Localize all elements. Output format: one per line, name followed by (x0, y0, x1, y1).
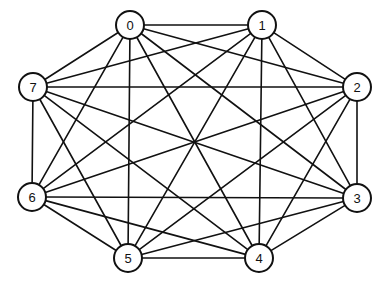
graph-canvas: 01234567 (0, 0, 388, 288)
graph-edge (259, 39, 262, 244)
node-circle[interactable] (248, 11, 276, 39)
graph-node-6[interactable]: 6 (18, 183, 46, 211)
node-circle[interactable] (114, 244, 142, 272)
node-circle[interactable] (245, 244, 273, 272)
graph-edge (39, 37, 123, 185)
node-circle[interactable] (19, 73, 47, 101)
graph-edge (32, 101, 33, 183)
graph-edge (266, 99, 350, 246)
graph-edge (269, 37, 351, 185)
graph-edge (128, 39, 130, 244)
graph-edge (40, 99, 121, 246)
graph-edge (47, 29, 249, 84)
graph-node-1[interactable]: 1 (248, 11, 276, 39)
node-circle[interactable] (18, 183, 46, 211)
graph-edge (46, 201, 246, 255)
node-circle[interactable] (343, 184, 371, 212)
edge-layer (32, 25, 357, 258)
graph-edge (139, 95, 346, 249)
graph-edge (274, 33, 346, 80)
node-circle[interactable] (116, 11, 144, 39)
graph-node-3[interactable]: 3 (343, 184, 371, 212)
graph-edge (46, 197, 343, 198)
graph-node-2[interactable]: 2 (343, 73, 371, 101)
graph-node-5[interactable]: 5 (114, 244, 142, 272)
graph-edge (45, 33, 118, 80)
graph-node-4[interactable]: 4 (245, 244, 273, 272)
graph-edge (44, 205, 116, 251)
graph-edge (271, 205, 345, 250)
graph-node-0[interactable]: 0 (116, 11, 144, 39)
graph-diagram: 01234567 (0, 0, 388, 288)
graph-edge (142, 202, 344, 255)
node-circle[interactable] (343, 73, 371, 101)
graph-node-7[interactable]: 7 (19, 73, 47, 101)
